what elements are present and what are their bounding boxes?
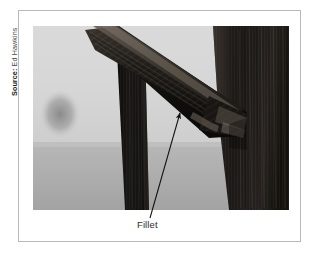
source-credit: Source: Ed Hawkins bbox=[0, 0, 14, 120]
joint-photograph bbox=[33, 26, 289, 210]
fillet-callout-label: Fillet bbox=[137, 219, 158, 231]
joint-photograph-image bbox=[33, 26, 289, 210]
figure-root: Source: Ed Hawkins bbox=[0, 0, 313, 257]
